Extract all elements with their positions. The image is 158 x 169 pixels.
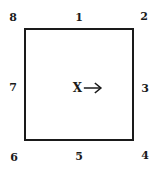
label-top-right: 2	[140, 11, 148, 22]
arrow-right-icon	[83, 82, 103, 94]
label-bottom-middle: 5	[75, 151, 83, 162]
diagram-canvas: 8 1 2 3 4 5 6 7 X	[0, 0, 158, 169]
label-top-middle: 1	[75, 12, 83, 23]
label-bottom-right: 4	[141, 150, 149, 161]
label-top-left: 8	[9, 12, 17, 23]
label-bottom-left: 6	[10, 152, 18, 163]
center-marker: X	[73, 81, 103, 95]
label-right-middle: 3	[141, 83, 149, 94]
center-letter: X	[73, 81, 82, 95]
label-left-middle: 7	[9, 82, 17, 93]
